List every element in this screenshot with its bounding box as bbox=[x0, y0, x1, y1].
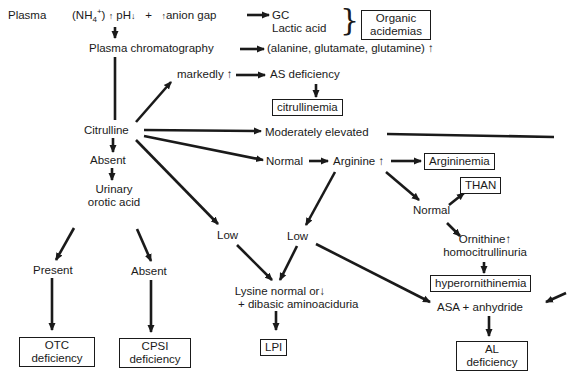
brace-symbol: } bbox=[340, 5, 359, 35]
homocitrullinuria-line: homocitrullinuria bbox=[430, 246, 540, 259]
plasma-label: Plasma bbox=[8, 9, 46, 22]
absent-label-2: Absent bbox=[131, 265, 167, 278]
organic-acidemias-line1: Organic bbox=[366, 12, 426, 25]
lactic-acid-label: Lactic acid bbox=[272, 22, 326, 35]
urea-cycle-diagnostic-flowchart: Plasma (NH4+) ↑ pH↓ + ↑anion gap GC Lact… bbox=[0, 0, 574, 378]
amino-acids-label: (alanine, glutamate, glutamine) ↑ bbox=[267, 42, 434, 55]
ornithine-line: Ornithine↑ bbox=[430, 233, 540, 246]
otc-deficiency-line: deficiency bbox=[24, 352, 90, 365]
plasma-chromatography-label: Plasma chromatography bbox=[89, 42, 214, 55]
than-box: THAN bbox=[460, 177, 501, 194]
ph-text: pH bbox=[116, 9, 131, 21]
lysine-line2: + dibasic aminoaciduria bbox=[238, 298, 359, 311]
low-label-2: Low bbox=[287, 230, 308, 243]
asa-anhydride-label: ASA + anhydride bbox=[437, 301, 523, 314]
anion-gap-text: anion gap bbox=[166, 9, 217, 21]
citrullinemia-box: citrullinemia bbox=[272, 99, 343, 116]
cpsi-deficiency-line: deficiency bbox=[124, 353, 186, 366]
absent-label: Absent bbox=[90, 154, 126, 167]
otc-line: OTC bbox=[24, 339, 90, 352]
present-label: Present bbox=[33, 264, 73, 277]
cpsi-deficiency-box: CPSI deficiency bbox=[119, 338, 191, 368]
increase-arrow-icon: ↑ bbox=[109, 11, 114, 21]
organic-acidemias-line2: acidemias bbox=[366, 25, 426, 38]
gc-label: GC bbox=[272, 9, 289, 22]
lpi-box: LPI bbox=[260, 339, 287, 356]
lysine-label: Lysine normal or↓ bbox=[234, 285, 326, 298]
al-line: AL bbox=[461, 343, 523, 356]
urinary-line: Urinary bbox=[72, 183, 156, 196]
ornithine-label: Ornithine↑ homocitrullinuria bbox=[430, 233, 540, 259]
lysine-line1: Lysine normal or↓ bbox=[234, 285, 326, 298]
as-deficiency-label: AS deficiency bbox=[270, 68, 340, 81]
organic-acidemias-box: Organic acidemias bbox=[361, 10, 431, 40]
urinary-orotic-acid-label: Urinary orotic acid bbox=[72, 183, 156, 209]
plus-sign: + bbox=[145, 9, 152, 21]
al-deficiency-line: deficiency bbox=[461, 356, 523, 369]
low-label-1: Low bbox=[217, 229, 238, 242]
normal-arginine-label: Normal bbox=[413, 204, 450, 217]
arginine-label: Arginine ↑ bbox=[333, 155, 384, 168]
orotic-acid-line: orotic acid bbox=[72, 196, 156, 209]
decrease-arrow-icon: ↓ bbox=[131, 11, 136, 21]
markedly-label: markedly ↑ bbox=[177, 68, 233, 81]
ammonia-text: (NH4+) bbox=[72, 9, 105, 21]
plasma-findings: (NH4+) ↑ pH↓ + ↑anion gap bbox=[72, 9, 216, 23]
al-deficiency-box: AL deficiency bbox=[456, 341, 528, 371]
citrulline-label: Citrulline bbox=[84, 124, 129, 137]
argininemia-box: Argininemia bbox=[424, 153, 495, 170]
otc-deficiency-box: OTC deficiency bbox=[19, 337, 95, 367]
hyperornithinemia-box: hyperornithinemia bbox=[430, 275, 531, 292]
moderately-elevated-label: Moderately elevated bbox=[265, 126, 369, 139]
normal-label: Normal bbox=[266, 155, 303, 168]
cpsi-line: CPSI bbox=[124, 340, 186, 353]
